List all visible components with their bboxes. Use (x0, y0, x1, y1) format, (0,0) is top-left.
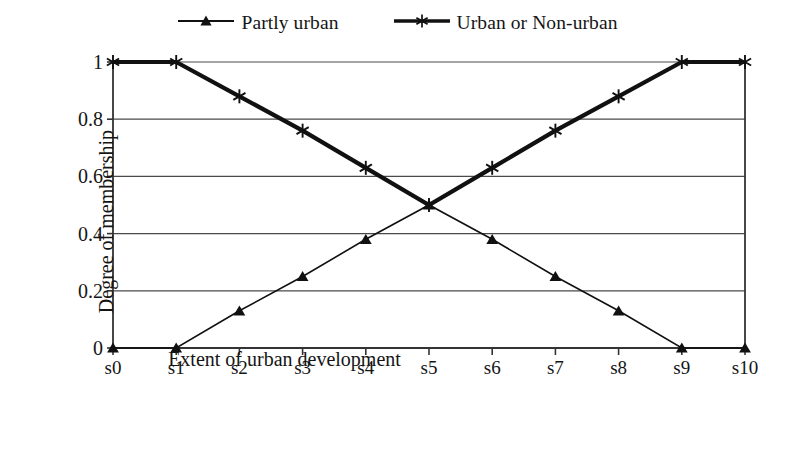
legend-entry-partly-urban: Partly urban (177, 13, 338, 33)
triangle-marker-icon (177, 13, 235, 33)
x-axis-title: Extent of urban development (0, 348, 682, 371)
data-series-layer (107, 55, 751, 353)
plot-area: 00.20.40.60.81 s0s1s2s3s4s5s6s7s8s9s10 D… (113, 62, 745, 348)
legend-entry-urban-or-non-urban: Urban or Non-urban (393, 13, 618, 33)
y-axis-title: Degree of membership (95, 57, 118, 387)
legend-label-urban-or-non-urban: Urban or Non-urban (457, 13, 618, 33)
gridlines (113, 62, 745, 291)
fuzzy-membership-chart: Partly urban Urban or Non-urban (0, 0, 795, 452)
legend-label-partly-urban: Partly urban (241, 13, 338, 33)
plot-svg (113, 62, 745, 348)
chart-legend: Partly urban Urban or Non-urban (0, 6, 795, 40)
asterisk-marker-icon (393, 13, 451, 33)
x-tick-label: s10 (715, 358, 775, 377)
